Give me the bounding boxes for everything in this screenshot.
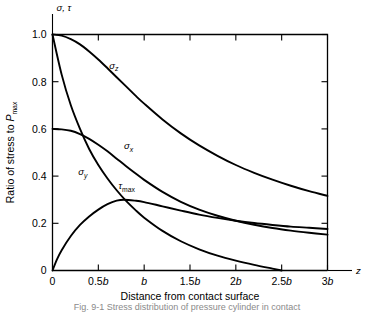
y-tick-label: 0 xyxy=(41,264,47,276)
curve-y xyxy=(53,35,282,271)
x-axis-symbol: z xyxy=(355,265,361,276)
y-axis-symbol: σ, τ xyxy=(57,2,73,13)
figure-caption: Fig. 9-1 Stress distribution of pressure… xyxy=(74,302,301,312)
y-axis-title: Ratio of stress to Pmax xyxy=(4,101,18,203)
curve-label-z: σz xyxy=(109,60,119,73)
x-axis-title: Distance from contact surface xyxy=(121,290,260,302)
plot-frame xyxy=(53,35,328,271)
curve-z xyxy=(53,35,328,196)
x-tick-label: 3b xyxy=(322,275,334,287)
stress-distribution-chart: 00.5bb1.5b2b2.5b3b00.20.40.60.81.0σzσxσy… xyxy=(0,0,374,314)
x-tick-label: 0.5b xyxy=(88,275,109,287)
curve-x xyxy=(53,129,328,235)
y-tick-label: 0.2 xyxy=(32,217,47,229)
y-tick-label: 0.8 xyxy=(32,76,47,88)
figure-container: 00.5bb1.5b2b2.5b3b00.20.40.60.81.0σzσxσy… xyxy=(0,0,374,314)
x-tick-label: 2.5b xyxy=(271,275,292,287)
y-tick-label: 0.4 xyxy=(32,170,47,182)
curve-max xyxy=(53,200,328,271)
curve-label-x: σx xyxy=(124,140,134,153)
x-tick-label: 1.5b xyxy=(180,275,201,287)
y-tick-label: 1.0 xyxy=(32,28,47,40)
y-axis-title-group: Ratio of stress to Pmax xyxy=(4,101,18,203)
x-tick-label: 2b xyxy=(230,275,242,287)
curve-label-max: τmax xyxy=(119,180,136,193)
curve-label-y: σy xyxy=(78,166,88,180)
x-tick-label: 0 xyxy=(50,275,56,287)
y-tick-label: 0.6 xyxy=(32,123,47,135)
x-tick-label: b xyxy=(141,275,147,287)
